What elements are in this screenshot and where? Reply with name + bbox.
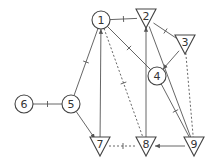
graph-diagram: 123456789 (0, 0, 214, 166)
node-layer: 123456789 (15, 9, 204, 156)
edge-tick-mark (164, 29, 167, 34)
node-label: 3 (182, 36, 189, 49)
node-label: 7 (97, 138, 104, 151)
edge-layer (33, 16, 193, 149)
node-1[interactable]: 1 (92, 11, 110, 29)
node-3[interactable]: 3 (175, 35, 195, 54)
node-8[interactable]: 8 (136, 137, 156, 156)
node-label: 4 (154, 70, 161, 83)
node-7[interactable]: 7 (90, 137, 110, 156)
node-label: 2 (143, 10, 150, 23)
node-6[interactable]: 6 (15, 95, 33, 113)
edge-3-9 (186, 53, 193, 137)
edge-tick-mark (173, 110, 178, 113)
edge-7-1 (100, 29, 101, 137)
node-label: 6 (21, 98, 28, 111)
node-9[interactable]: 9 (184, 137, 204, 156)
node-label: 8 (143, 138, 150, 151)
node-5[interactable]: 5 (62, 95, 80, 113)
node-label: 1 (98, 14, 105, 27)
edge-3-4 (163, 51, 179, 69)
node-2[interactable]: 2 (136, 9, 156, 28)
node-label: 5 (68, 98, 75, 111)
edge-5-7 (76, 111, 95, 138)
node-label: 9 (191, 138, 198, 151)
node-4[interactable]: 4 (148, 67, 166, 85)
